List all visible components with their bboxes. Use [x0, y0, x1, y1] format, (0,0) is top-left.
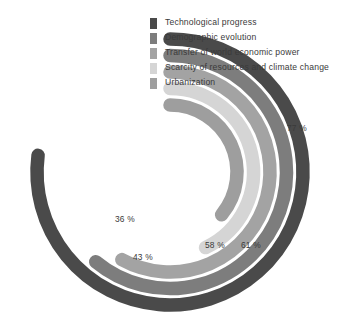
legend-swatch-1	[150, 18, 157, 29]
legend-swatch-3	[150, 48, 157, 59]
value-label-61: 61 %	[241, 240, 261, 250]
value-label-58: 58 %	[205, 240, 225, 250]
legend-item-label-transfer-of-world-economic-power: Transfer of world economic power	[165, 47, 300, 57]
value-label-36: 36 %	[115, 214, 135, 224]
value-label-77: 77 %	[287, 123, 307, 133]
legend-swatch-2	[150, 33, 157, 44]
legend-swatch-4	[150, 63, 157, 74]
radial-bar-36	[170, 105, 237, 215]
legend-item-label-demographic-evolution: Demographic evolution	[165, 32, 257, 42]
legend-swatch-5	[150, 78, 157, 89]
radial-bar-chart: Technological progress Demographic evolu…	[0, 0, 348, 327]
legend-item-label-urbanization: Urbanization	[165, 77, 215, 87]
value-label-43: 43 %	[133, 252, 153, 262]
legend-item-label-scarcity-of-resources-and-climate-change: Scarcity of resources and climate change	[165, 62, 329, 72]
legend-item-label-technological-progress: Technological progress	[165, 17, 257, 27]
